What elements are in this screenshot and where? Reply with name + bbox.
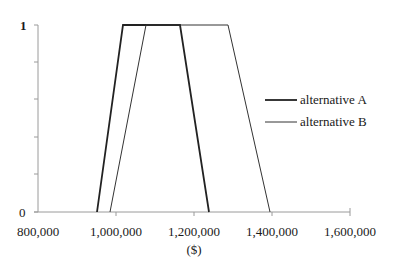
y-label-top: 1	[20, 18, 27, 33]
x-label-3: 1,400,000	[246, 224, 298, 239]
fuzzy-number-chart: 1 0 800,000 1,000,000 1,200,000 1,400,00…	[0, 0, 394, 269]
x-axis-title: ($)	[186, 242, 201, 257]
x-label-0: 800,000	[17, 224, 59, 239]
legend-label-b: alternative B	[300, 114, 367, 129]
y-ticks	[34, 25, 38, 212]
y-label-bottom: 0	[19, 205, 26, 220]
legend-label-a: alternative A	[300, 92, 367, 107]
x-label-2: 1,200,000	[168, 224, 220, 239]
series-alternative-a	[97, 25, 209, 212]
x-label-1: 1,000,000	[90, 224, 142, 239]
x-label-4: 1,600,000	[324, 224, 376, 239]
series-alternative-b	[110, 25, 270, 212]
legend: alternative A alternative B	[265, 92, 367, 129]
